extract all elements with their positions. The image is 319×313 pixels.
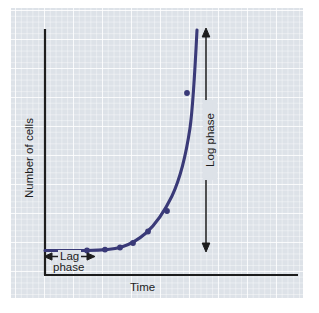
arrowhead-up — [202, 28, 210, 37]
arrowhead-down — [202, 243, 210, 252]
chart-vector-layer — [0, 0, 319, 313]
data-point — [117, 245, 123, 251]
arrowhead-right — [87, 253, 95, 260]
data-point — [145, 229, 151, 235]
data-point — [184, 90, 190, 96]
growth-curve-path — [45, 30, 197, 251]
y-axis-label: Number of cells — [23, 98, 35, 218]
data-point — [164, 208, 170, 214]
lag-phase-label-line2: phase — [53, 261, 84, 273]
data-point — [102, 247, 108, 253]
data-point-markers — [84, 90, 190, 253]
growth-curve-figure: Number of cells Time Log phase Lag phase — [0, 0, 319, 313]
log-phase-label: Log phase — [203, 100, 217, 180]
data-point — [130, 240, 136, 246]
x-axis-label: Time — [130, 281, 155, 293]
